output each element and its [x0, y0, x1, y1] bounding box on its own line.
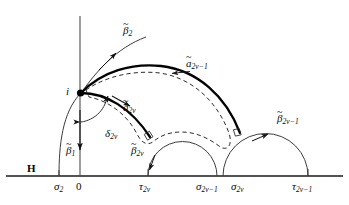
- axis-tick-marks: [59, 169, 308, 176]
- axis-label-sigma-2: σ2: [54, 181, 63, 194]
- angle-label-delta-2nu: δ2ν: [105, 128, 117, 141]
- a-tilde-2nu-glyph: ~a: [123, 102, 129, 113]
- semicircle-beta-tilde-2nu-1: [223, 134, 308, 176]
- axis-label-tau-2nu-1-sub: 2ν−1: [296, 185, 312, 194]
- tilde-accent-icon: ~: [131, 139, 136, 149]
- curve-label-beta-tilde-2: ~β2: [123, 25, 132, 38]
- angle-arc-delta-2nu: [80, 104, 105, 122]
- curve-label-beta-tilde-2nu: ~β2ν: [131, 145, 144, 158]
- base-point-i-dot: [77, 89, 84, 96]
- beta-tilde-2-direction-arrow: [99, 53, 116, 70]
- geodesic-sigma2-to-i: [59, 93, 81, 176]
- upper-half-plane-label: H: [27, 162, 36, 174]
- hyperbolic-geodesic-diagram: H i σ2 0 τ2ν σ2ν−1 σ2ν τ2ν−1 ~β2 ~a2ν−1: [0, 0, 349, 205]
- axis-label-tau-2nu-sub: 2ν: [143, 185, 150, 194]
- tilde-accent-icon: ~: [66, 139, 71, 149]
- diagram-canvas: [0, 0, 349, 205]
- a-tilde-2nu-1-glyph: ~a: [186, 58, 192, 69]
- semicircle-beta-tilde-2nu: [148, 142, 217, 177]
- curve-label-beta-tilde-2nu-1-sub: 2ν−1: [282, 117, 298, 126]
- curve-label-beta-tilde-1-sub: 1: [71, 149, 75, 158]
- tilde-accent-icon: ~: [186, 52, 191, 62]
- axis-label-sigma-2nu: σ2ν: [231, 181, 244, 194]
- tilde-accent-icon: ~: [123, 96, 128, 106]
- axis-label-origin: 0: [76, 181, 82, 194]
- tilde-accent-icon: ~: [277, 107, 282, 117]
- tilde-accent-icon: ~: [123, 19, 128, 29]
- axis-label-origin-base: 0: [76, 180, 82, 192]
- axis-label-sigma-2nu-sub: 2ν: [236, 185, 243, 194]
- beta-tilde-2-glyph: ~β: [123, 25, 128, 36]
- base-point-label-i: i: [66, 86, 69, 97]
- curve-label-beta-tilde-1: ~β1: [66, 145, 75, 158]
- curve-label-beta-tilde-2-sub: 2: [128, 29, 132, 38]
- axis-label-tau-2nu: τ2ν: [139, 181, 150, 194]
- beta-tilde-2nu-1-glyph: ~β: [277, 113, 282, 124]
- curve-label-beta-tilde-2nu-1: ~β2ν−1: [277, 113, 299, 126]
- beta-tilde-1-glyph: ~β: [66, 145, 71, 156]
- axis-label-sigma-2-sub: 2: [59, 185, 63, 194]
- curve-label-a-tilde-2nu-1-sub: 2ν−1: [192, 62, 208, 71]
- curve-label-a-tilde-2nu: ~a2ν: [123, 102, 136, 115]
- axis-label-sigma-2nu-1: σ2ν−1: [196, 181, 218, 194]
- right-angle-marker-a2nu-1: [233, 129, 241, 137]
- curve-label-a-tilde-2nu-sub: 2ν: [129, 106, 136, 115]
- curve-label-beta-tilde-2nu-sub: 2ν: [136, 149, 143, 158]
- angle-label-delta-2nu-sub: 2ν: [110, 132, 117, 141]
- curve-label-a-tilde-2nu-1: ~a2ν−1: [186, 58, 208, 71]
- axis-label-sigma-2nu-1-sub: 2ν−1: [201, 185, 217, 194]
- right-angle-markers: [144, 129, 241, 141]
- geodesic-a-tilde-2nu-1: [81, 65, 240, 133]
- axis-label-tau-2nu-1: τ2ν−1: [292, 181, 312, 194]
- beta-tilde-2nu-glyph: ~β: [131, 145, 136, 156]
